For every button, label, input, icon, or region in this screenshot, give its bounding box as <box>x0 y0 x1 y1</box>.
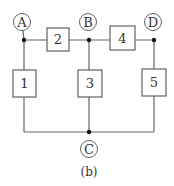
node-a: A <box>14 14 31 31</box>
figure-caption: (b) <box>80 165 97 179</box>
element-box-5: 5 <box>142 69 166 96</box>
node-label-c: C <box>84 142 94 157</box>
node-d: D <box>145 14 162 31</box>
element-label-2: 2 <box>54 32 62 47</box>
node-label-d: D <box>148 15 158 30</box>
junction-dot-a <box>22 38 26 42</box>
element-box-1: 1 <box>13 70 36 97</box>
element-box-3: 3 <box>78 70 102 97</box>
node-label-a: A <box>16 15 27 30</box>
element-box-2: 2 <box>47 28 69 51</box>
node-b: B <box>80 14 97 31</box>
junction-dot-d <box>152 38 156 42</box>
junction-dot-c <box>87 130 91 134</box>
element-label-3: 3 <box>86 76 94 91</box>
circuit-diagram: 1 2 3 4 5 A B D C (b) <box>0 0 174 186</box>
element-box-4: 4 <box>110 26 135 50</box>
element-label-4: 4 <box>118 31 126 46</box>
node-c: C <box>81 141 98 158</box>
node-label-b: B <box>83 15 93 30</box>
element-label-5: 5 <box>150 75 158 90</box>
junction-dot-b <box>87 38 91 42</box>
element-label-1: 1 <box>20 76 28 91</box>
